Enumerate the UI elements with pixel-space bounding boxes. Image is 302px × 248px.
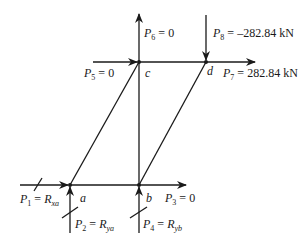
force-label-p2: P2 = Rya [75, 218, 114, 233]
node-b-dot [137, 183, 141, 187]
node-label-a: a [80, 192, 86, 204]
node-label-d: d [207, 65, 213, 77]
force-label-p3: P3 = 0 [165, 192, 195, 207]
force-label-p8: P8 = –282.84 kN [213, 27, 294, 42]
node-label-c: c [145, 67, 150, 79]
node-c-dot [137, 60, 141, 64]
member-b-d [139, 62, 206, 185]
node-label-b: b [146, 192, 152, 204]
node-a-dot [68, 183, 72, 187]
force-label-p7: P7 = 282.84 kN [223, 67, 298, 82]
force-label-p4: P4 = Ryb [143, 218, 182, 233]
force-label-p5: P5 = 0 [84, 67, 114, 82]
truss-diagram: a b c d P1 = Rxa P2 = Rya P3 = 0 P4 = Ry… [0, 0, 302, 248]
force-label-p6: P6 = 0 [144, 27, 174, 42]
force-label-p1: P1 = Rxa [20, 193, 59, 208]
